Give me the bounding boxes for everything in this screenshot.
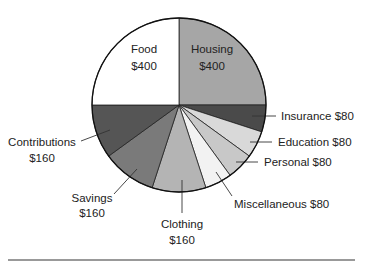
label-contributions-value: $160: [29, 152, 55, 164]
label-housing-value: $400: [199, 60, 225, 72]
pie-slices: [92, 18, 266, 192]
label-insurance: Insurance $80: [281, 110, 354, 122]
label-education: Education $80: [278, 136, 352, 148]
label-savings-value: $160: [79, 207, 105, 219]
label-savings-name: Savings: [72, 192, 113, 204]
label-contributions-name: Contributions: [8, 136, 76, 148]
label-clothing-name: Clothing: [161, 218, 203, 230]
label-food-name: Food: [131, 43, 157, 55]
label-miscellaneous: Miscellaneous $80: [234, 198, 329, 210]
pie-chart: Housing$400Insurance $80Education $80Per…: [0, 0, 365, 265]
label-personal: Personal $80: [264, 156, 332, 168]
label-food-value: $400: [131, 60, 157, 72]
label-housing-name: Housing: [191, 43, 233, 55]
label-clothing-value: $160: [169, 234, 195, 246]
